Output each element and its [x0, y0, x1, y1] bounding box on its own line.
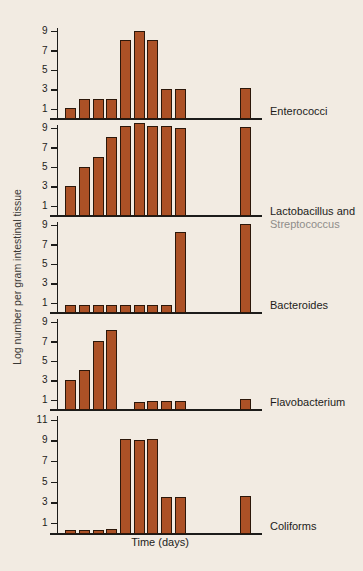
bar-lactobacillus-and-9 [175, 128, 186, 216]
bar-enterococci-7 [147, 40, 158, 119]
y-tick [51, 70, 57, 71]
bar-enterococci-6 [134, 31, 145, 119]
bar-bacteroides-2 [79, 305, 90, 313]
y-axis-line [57, 222, 58, 313]
bar-lactobacillus-and-10 [240, 127, 251, 216]
bar-lactobacillus-and-4 [106, 137, 117, 216]
y-axis-line [57, 416, 58, 534]
y-tick-label: 3 [26, 181, 48, 191]
panel-coliforms: 1357911Coliforms [0, 410, 363, 534]
bar-bacteroides-6 [134, 305, 145, 313]
y-tick-label: 7 [26, 337, 48, 347]
y-tick [51, 50, 57, 51]
bar-coliforms-8 [161, 497, 172, 534]
bar-coliforms-2 [79, 530, 90, 534]
x-axis-title: Time (days) [131, 536, 189, 548]
plot-area: 13579Enterococci13579Lactobacillus andSt… [0, 22, 363, 534]
y-axis-line [57, 125, 58, 216]
bar-flavobacterium-4 [106, 330, 117, 410]
y-tick [51, 206, 57, 207]
panel-label-line1: Bacteroides [270, 299, 328, 312]
bar-bacteroides-9 [175, 232, 186, 313]
y-tick-label: 11 [26, 415, 48, 425]
panel-enterococci: 13579Enterococci [0, 22, 363, 119]
y-tick-label: 7 [26, 240, 48, 250]
y-tick-label: 1 [26, 104, 48, 114]
bar-lactobacillus-and-2 [79, 167, 90, 217]
y-tick [51, 147, 57, 148]
bar-flavobacterium-10 [240, 399, 251, 410]
y-tick [51, 420, 57, 421]
y-tick-label: 9 [26, 435, 48, 445]
bar-enterococci-9 [175, 89, 186, 119]
bar-enterococci-4 [106, 99, 117, 119]
bar-lactobacillus-and-8 [161, 126, 172, 216]
y-tick [51, 264, 57, 265]
bar-flavobacterium-6 [134, 402, 145, 410]
y-tick-label: 7 [26, 143, 48, 153]
bar-lactobacillus-and-5 [120, 126, 131, 216]
y-tick-label: 1 [26, 395, 48, 405]
bar-flavobacterium-8 [161, 401, 172, 410]
y-tick [51, 461, 57, 462]
y-tick-label: 7 [26, 456, 48, 466]
bar-enterococci-5 [120, 40, 131, 119]
bar-coliforms-3 [93, 530, 104, 534]
y-tick-label: 9 [26, 220, 48, 230]
y-tick [51, 186, 57, 187]
panel-bacteroides: 13579Bacteroides [0, 216, 363, 313]
bacteria-growth-figure: Log number per gram intestinal tissue 13… [0, 0, 363, 571]
bar-enterococci-10 [240, 88, 251, 119]
y-axis-line [57, 28, 58, 119]
panel-label-line1: Flavobacterium [270, 396, 345, 409]
y-tick [51, 89, 57, 90]
y-tick [51, 167, 57, 168]
bar-bacteroides-3 [93, 305, 104, 313]
bar-bacteroides-8 [161, 305, 172, 313]
bar-lactobacillus-and-7 [147, 126, 158, 216]
bar-coliforms-9 [175, 497, 186, 534]
bar-lactobacillus-and-6 [134, 123, 145, 216]
y-tick [51, 361, 57, 362]
y-tick-label: 5 [26, 162, 48, 172]
bar-coliforms-7 [147, 439, 158, 534]
bar-flavobacterium-9 [175, 401, 186, 410]
bar-flavobacterium-7 [147, 401, 158, 410]
y-tick [51, 380, 57, 381]
bar-lactobacillus-and-3 [93, 157, 104, 216]
y-tick-label: 3 [26, 497, 48, 507]
y-tick-label: 3 [26, 278, 48, 288]
y-tick-label: 7 [26, 46, 48, 56]
y-tick-label: 5 [26, 356, 48, 366]
y-tick [51, 283, 57, 284]
y-tick [51, 244, 57, 245]
y-tick [51, 303, 57, 304]
bar-coliforms-4 [106, 529, 117, 534]
y-tick-label: 9 [26, 26, 48, 36]
bar-flavobacterium-1 [65, 380, 76, 410]
y-tick [51, 502, 57, 503]
y-tick [51, 341, 57, 342]
bar-bacteroides-4 [106, 305, 117, 313]
y-tick [51, 440, 57, 441]
bar-bacteroides-1 [65, 305, 76, 313]
y-tick [51, 128, 57, 129]
y-tick-label: 9 [26, 317, 48, 327]
y-tick-label: 1 [26, 298, 48, 308]
y-tick-label: 1 [26, 518, 48, 528]
y-tick [51, 322, 57, 323]
y-tick [51, 523, 57, 524]
y-tick-label: 3 [26, 84, 48, 94]
panel-flavobacterium: 13579Flavobacterium [0, 313, 363, 410]
y-tick [51, 482, 57, 483]
y-tick-label: 3 [26, 375, 48, 385]
panel-label-enterococci: Enterococci [270, 105, 327, 118]
bar-coliforms-6 [134, 440, 145, 534]
bar-bacteroides-7 [147, 305, 158, 313]
bar-coliforms-1 [65, 530, 76, 534]
y-tick [51, 31, 57, 32]
bar-enterococci-3 [93, 99, 104, 119]
y-tick-label: 1 [26, 201, 48, 211]
y-tick-label: 5 [26, 65, 48, 75]
bar-coliforms-5 [120, 439, 131, 534]
